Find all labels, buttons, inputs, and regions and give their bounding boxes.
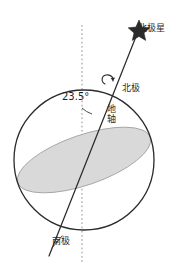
label-earth-axis: 地轴 (106, 104, 116, 125)
label-tilt-angle: 23.5° (62, 92, 89, 103)
label-polaris: 北极星 (138, 24, 165, 33)
earth-axis-tilt-diagram: 北极星 北极 23.5° 地轴 南极 (0, 0, 185, 273)
label-north-pole: 北极 (122, 84, 140, 93)
label-south-pole: 南极 (52, 237, 70, 246)
orbital-plane-ellipse (10, 114, 159, 207)
diagram-canvas (0, 0, 185, 273)
tilt-angle-arc (82, 108, 92, 114)
orbital-plane-group (10, 114, 159, 207)
caption-partial (0, 264, 185, 273)
rotation-arrow-icon (102, 75, 115, 84)
